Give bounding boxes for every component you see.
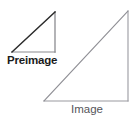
preimage-label: Preimage — [7, 55, 57, 67]
figure-container: Preimage Image — [0, 0, 140, 121]
image-label: Image — [71, 104, 103, 116]
